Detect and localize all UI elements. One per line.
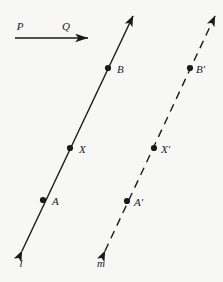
- point-B-group[interactable]: B: [105, 63, 124, 75]
- point-X-label: X: [78, 143, 87, 155]
- point-A-prime-label: A′: [133, 196, 144, 208]
- point-X-prime-label: X′: [160, 143, 171, 155]
- vector-point-p-label: P: [16, 20, 24, 32]
- point-X-prime-dot[interactable]: [151, 145, 157, 151]
- point-A-prime-dot[interactable]: [124, 198, 130, 204]
- point-A-prime-group[interactable]: A′: [124, 196, 144, 208]
- line-m-label: m: [97, 257, 105, 269]
- geometry-figure: l m A X B A′: [0, 0, 223, 282]
- line-l-label: l: [19, 257, 22, 269]
- line-l[interactable]: [22, 16, 133, 251]
- translation-vector-group[interactable]: P Q: [15, 20, 88, 38]
- point-A-label: A: [51, 195, 59, 207]
- point-X-group[interactable]: X: [67, 143, 87, 155]
- point-A-group[interactable]: A: [40, 195, 59, 207]
- point-A-dot[interactable]: [40, 197, 46, 203]
- points-line-m: A′ X′ B′: [124, 63, 206, 208]
- point-B-prime-dot[interactable]: [187, 65, 193, 71]
- line-m[interactable]: [105, 16, 215, 251]
- figure-canvas: l m A X B A′: [0, 0, 223, 282]
- point-B-dot[interactable]: [105, 65, 111, 71]
- point-X-prime-group[interactable]: X′: [151, 143, 171, 155]
- vector-point-q-label: Q: [62, 20, 70, 32]
- point-X-dot[interactable]: [67, 145, 73, 151]
- point-B-prime-group[interactable]: B′: [187, 63, 206, 75]
- point-B-prime-label: B′: [196, 63, 206, 75]
- line-l-group[interactable]: l: [19, 16, 133, 269]
- point-B-label: B: [117, 63, 124, 75]
